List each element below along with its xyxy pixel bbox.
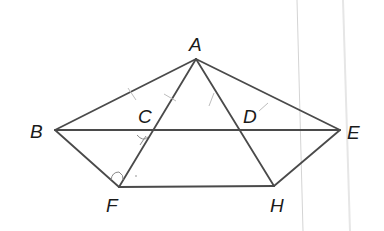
label-E: E <box>347 122 360 143</box>
angle-arc-F <box>111 172 123 180</box>
segment-BF <box>55 130 119 187</box>
label-B: B <box>30 121 43 142</box>
label-C: C <box>138 106 152 127</box>
dot-mark <box>135 175 137 177</box>
segment-HE <box>274 130 340 186</box>
angle-arc-C <box>137 135 148 139</box>
tick-mark-DE <box>259 103 268 111</box>
label-D: D <box>243 106 257 127</box>
geometry-diagram: A B C D E F H <box>0 0 384 231</box>
label-H: H <box>270 195 284 216</box>
page-rule-line-right <box>343 0 350 231</box>
label-A: A <box>188 34 202 55</box>
segment-FH <box>119 186 274 187</box>
label-F: F <box>106 195 119 216</box>
tick-mark-AD <box>209 93 214 106</box>
page-rule-line-left <box>297 0 303 231</box>
